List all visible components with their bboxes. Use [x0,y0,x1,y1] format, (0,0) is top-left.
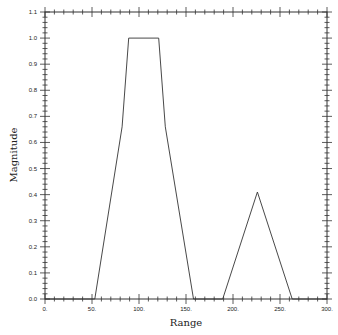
y-tick-label: 0.6 [29,139,38,145]
series-line-magnitude [45,38,327,299]
y-tick-label: 0.0 [29,296,38,302]
x-tick-label: 300. [321,306,333,312]
y-axis-title: Magnitude [8,127,19,182]
x-tick-labels: 0.50.100.150.200.250.300. [42,306,333,312]
y-tick-label: 0.9 [29,61,38,67]
x-tick-label: 200. [227,306,239,312]
x-tick-label: 100. [133,306,145,312]
y-tick-label: 0.7 [29,113,38,119]
y-tick-label: 1.0 [29,35,38,41]
axis-ticks [40,7,332,304]
magnitude-range-chart: 0.50.100.150.200.250.300. 0.00.10.20.30.… [0,0,338,335]
y-tick-label: 0.4 [29,192,38,198]
x-tick-label: 150. [180,306,192,312]
y-tick-label: 1.1 [29,9,38,15]
x-tick-label: 0. [42,306,47,312]
x-tick-label: 50. [88,306,97,312]
x-axis-title: Range [170,317,203,328]
x-tick-label: 250. [274,306,286,312]
y-tick-label: 0.3 [29,218,38,224]
y-tick-label: 0.2 [29,244,38,250]
y-tick-label: 0.5 [29,166,38,172]
series-group [45,38,327,299]
y-tick-label: 0.8 [29,87,38,93]
y-tick-label: 0.1 [29,270,38,276]
y-tick-labels: 0.00.10.20.30.40.50.60.70.80.91.01.1 [29,9,38,302]
